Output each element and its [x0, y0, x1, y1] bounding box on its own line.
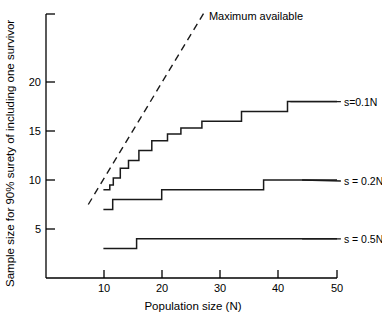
y-tick-label-5: 5 [35, 223, 41, 235]
maximum-available-dashed-line [88, 11, 205, 204]
series-label-s-0-1n: s=0.1N [344, 96, 378, 108]
series-line-s-0-1n [103, 102, 337, 190]
y-axis-title: Sample size for 90% surety of including … [4, 20, 16, 287]
x-tick-label-30: 30 [214, 282, 226, 294]
series-label-s-0-5n: s = 0.5N [344, 233, 382, 245]
y-axis-ticks [46, 82, 55, 229]
y-axis-tick-labels: 20 15 10 5 [29, 76, 41, 235]
maximum-available-label: Maximum available [209, 10, 303, 22]
x-axis-ticks [104, 270, 278, 278]
x-tick-label-10: 10 [98, 282, 110, 294]
x-tick-label-40: 40 [272, 282, 284, 294]
chart-canvas: Sample size for 90% surety of including … [0, 0, 382, 314]
x-tick-label-50: 50 [331, 282, 343, 294]
x-axis-tick-labels: 10 20 30 40 50 [98, 282, 343, 294]
series-line-s-0-5n [103, 239, 337, 249]
y-tick-label-10: 10 [29, 174, 41, 186]
series-layer [88, 11, 341, 248]
x-tick-label-20: 20 [156, 282, 168, 294]
series-line-s-0-2n [103, 180, 337, 209]
series-label-s-0-2n: s = 0.2N [344, 175, 382, 187]
chart-figure: Sample size for 90% surety of including … [0, 0, 382, 314]
x-axis-title: Population size (N) [144, 300, 241, 312]
y-tick-label-15: 15 [29, 125, 41, 137]
y-tick-label-20: 20 [29, 76, 41, 88]
